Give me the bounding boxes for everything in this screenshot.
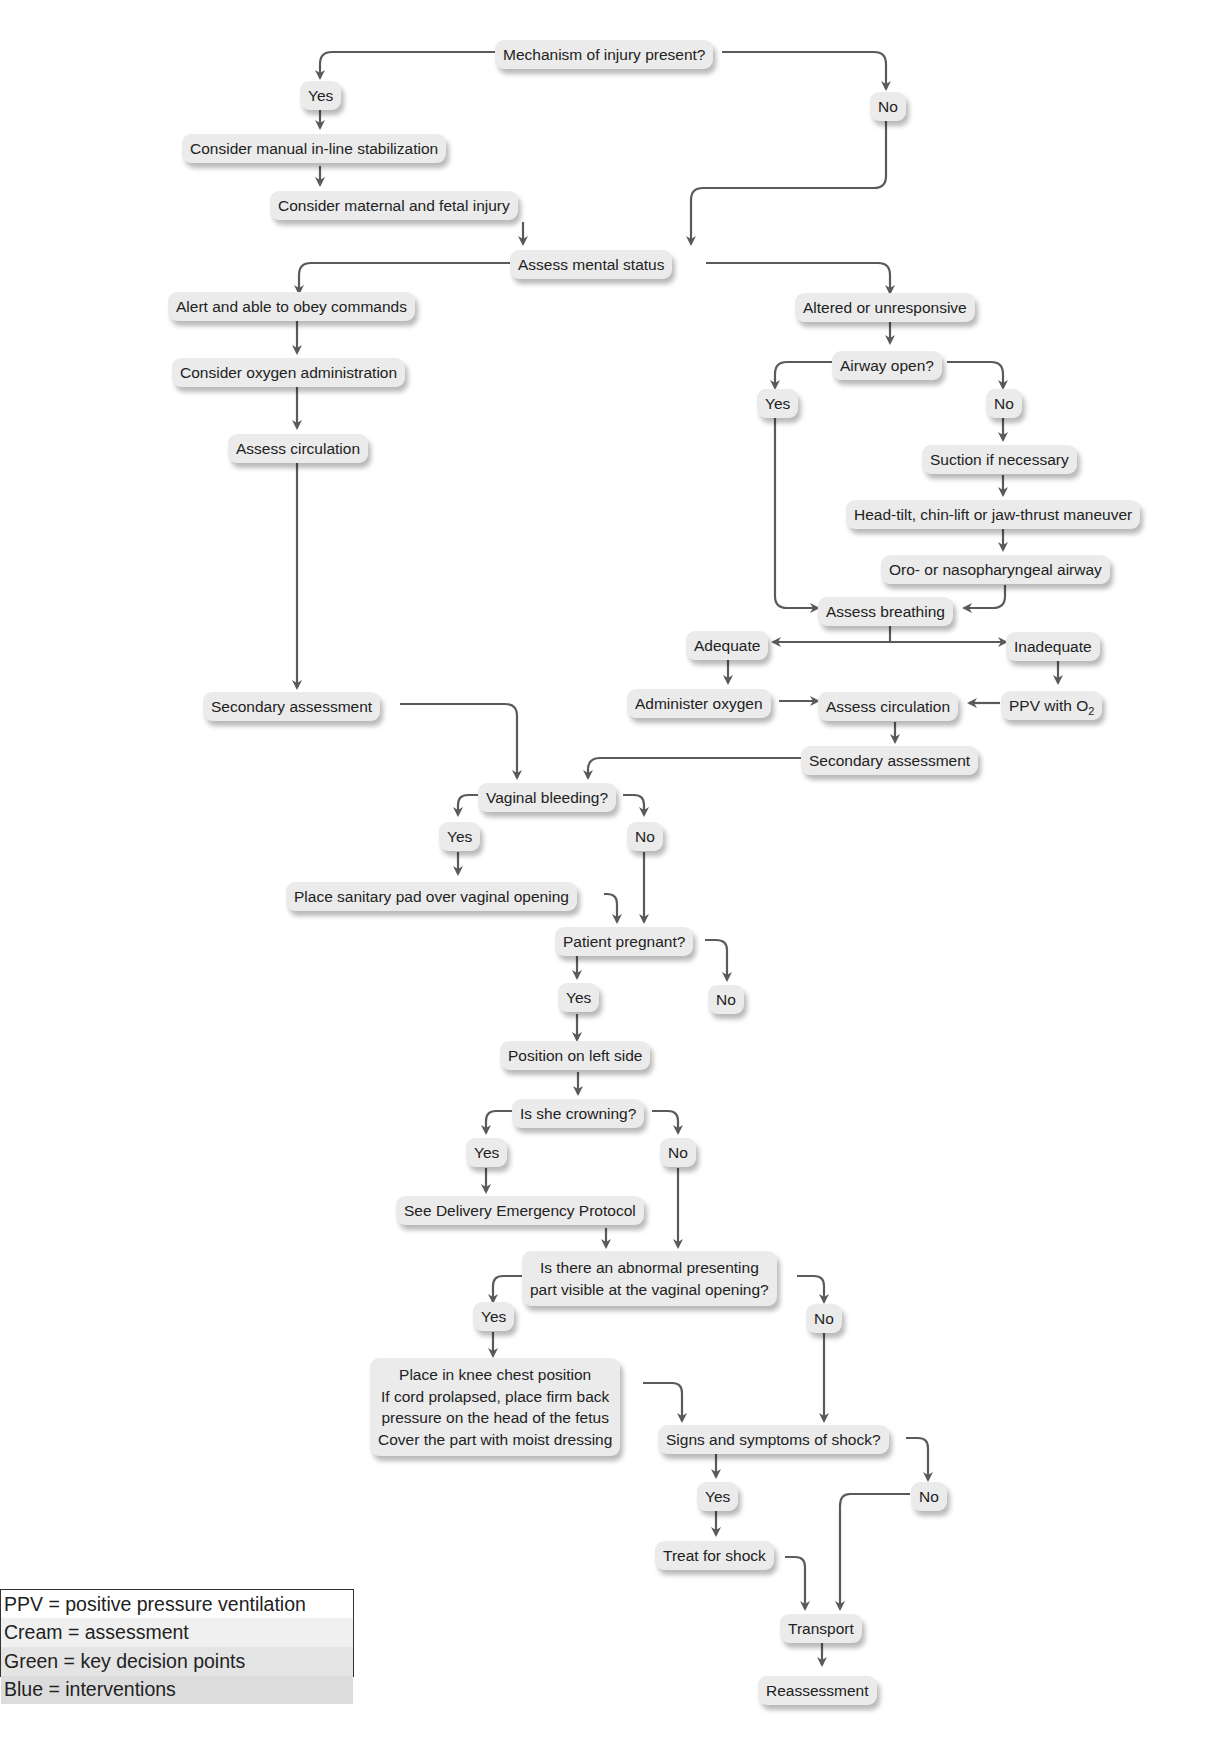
node-delivery-emergency-protocol: See Delivery Emergency Protocol bbox=[396, 1196, 644, 1225]
ppv-label: PPV with O bbox=[1009, 697, 1088, 714]
node-assess-circulation-left: Assess circulation bbox=[228, 434, 368, 463]
node-assess-circulation-right: Assess circulation bbox=[818, 692, 958, 721]
node-vb-no: No bbox=[627, 822, 663, 851]
node-maternal-fetal-injury: Consider maternal and fetal injury bbox=[270, 191, 518, 220]
node-signs-of-shock: Signs and symptoms of shock? bbox=[658, 1425, 889, 1454]
node-abnormal-presenting-part: Is there an abnormal presenting part vis… bbox=[522, 1251, 777, 1306]
node-administer-oxygen: Administer oxygen bbox=[627, 689, 771, 718]
node-ppv-with-o2: PPV with O2 bbox=[1001, 691, 1102, 720]
knee-chest-line-3: pressure on the head of the fetus bbox=[378, 1407, 612, 1429]
node-oro-nasopharyngeal-airway: Oro- or nasopharyngeal airway bbox=[881, 555, 1110, 584]
node-suction: Suction if necessary bbox=[922, 445, 1077, 474]
legend-item-cream: Cream = assessment bbox=[1, 1618, 353, 1647]
node-sanitary-pad: Place sanitary pad over vaginal opening bbox=[286, 882, 577, 911]
node-airway-no: No bbox=[986, 389, 1022, 418]
node-vb-yes: Yes bbox=[439, 822, 480, 851]
node-alert-obey-commands: Alert and able to obey commands bbox=[168, 292, 415, 321]
node-abnormal-no: No bbox=[806, 1304, 842, 1333]
node-position-left-side: Position on left side bbox=[500, 1041, 650, 1070]
node-pregnant-yes: Yes bbox=[558, 983, 599, 1012]
node-reassessment: Reassessment bbox=[758, 1676, 877, 1705]
node-transport: Transport bbox=[780, 1614, 862, 1643]
node-manual-inline-stabilization: Consider manual in-line stabilization bbox=[182, 134, 446, 163]
node-crowning-yes: Yes bbox=[466, 1138, 507, 1167]
node-inadequate: Inadequate bbox=[1006, 632, 1100, 661]
node-treat-for-shock: Treat for shock bbox=[655, 1541, 774, 1570]
node-shock-no: No bbox=[911, 1482, 947, 1511]
node-patient-pregnant: Patient pregnant? bbox=[555, 927, 693, 956]
knee-chest-line-2: If cord prolapsed, place firm back bbox=[378, 1386, 612, 1408]
legend-item-blue: Blue = interventions bbox=[1, 1676, 353, 1704]
flowchart-canvas: Mechanism of injury present? Yes No Cons… bbox=[0, 0, 1211, 1747]
node-airway-yes: Yes bbox=[757, 389, 798, 418]
node-crowning-no: No bbox=[660, 1138, 696, 1167]
node-assess-breathing: Assess breathing bbox=[818, 597, 953, 626]
node-assess-mental-status: Assess mental status bbox=[510, 250, 672, 279]
node-knee-chest-position: Place in knee chest position If cord pro… bbox=[370, 1358, 620, 1456]
node-head-tilt-chin-lift: Head-tilt, chin-lift or jaw-thrust maneu… bbox=[846, 500, 1140, 529]
node-moi-no: No bbox=[870, 92, 906, 121]
node-shock-yes: Yes bbox=[697, 1482, 738, 1511]
node-abnormal-yes: Yes bbox=[473, 1302, 514, 1331]
knee-chest-line-4: Cover the part with moist dressing bbox=[378, 1429, 612, 1451]
node-moi-yes: Yes bbox=[300, 81, 341, 110]
node-airway-open: Airway open? bbox=[832, 351, 942, 380]
node-altered-unresponsive: Altered or unresponsive bbox=[795, 293, 975, 322]
node-vaginal-bleeding: Vaginal bleeding? bbox=[478, 783, 616, 812]
knee-chest-line-1: Place in knee chest position bbox=[378, 1364, 612, 1386]
node-is-she-crowning: Is she crowning? bbox=[512, 1099, 644, 1128]
legend: PPV = positive pressure ventilation Crea… bbox=[0, 1589, 354, 1677]
node-mechanism-of-injury: Mechanism of injury present? bbox=[495, 40, 713, 69]
legend-item-ppv: PPV = positive pressure ventilation bbox=[1, 1590, 353, 1618]
abnormal-line-1: Is there an abnormal presenting bbox=[530, 1257, 769, 1279]
node-secondary-assessment-right: Secondary assessment bbox=[801, 746, 978, 775]
node-consider-oxygen: Consider oxygen administration bbox=[172, 358, 405, 387]
legend-item-green: Green = key decision points bbox=[1, 1647, 353, 1676]
node-pregnant-no: No bbox=[708, 985, 744, 1014]
node-adequate: Adequate bbox=[686, 631, 768, 660]
node-secondary-assessment-left: Secondary assessment bbox=[203, 692, 380, 721]
abnormal-line-2: part visible at the vaginal opening? bbox=[530, 1279, 769, 1301]
ppv-subscript: 2 bbox=[1088, 705, 1094, 717]
